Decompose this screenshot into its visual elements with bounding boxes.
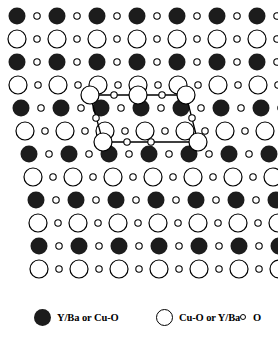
atom-small-open [202, 128, 208, 134]
atom-small-open [216, 266, 222, 272]
atom-large-open [249, 76, 267, 94]
atom-large-open [184, 168, 202, 186]
atom-large-open [49, 76, 67, 94]
atom-large-open [149, 214, 167, 232]
atom-small-open [250, 174, 256, 180]
atom-small-open [86, 151, 92, 157]
atom-large-filled [148, 192, 165, 209]
atom-large-open [144, 168, 162, 186]
open-large-circle-icon [156, 309, 173, 326]
atom-large-filled [209, 54, 226, 71]
atom-small-open [42, 128, 48, 134]
atom-small-open [56, 243, 62, 249]
atom-large-filled [108, 192, 125, 209]
atom-small-open [194, 36, 200, 42]
atom-large-filled [261, 146, 278, 163]
atom-large-filled [129, 8, 146, 25]
atom-large-open [69, 214, 87, 232]
atom-large-open [208, 30, 226, 48]
atom-small-open [56, 266, 62, 272]
atom-small-open [114, 59, 120, 65]
atom-small-open [216, 243, 222, 249]
atom-small-open [74, 13, 80, 19]
atom-large-filled [151, 238, 168, 255]
atom-large-open [224, 168, 242, 186]
legend-item-o: O [240, 296, 261, 338]
atom-small-open [34, 13, 40, 19]
atom-large-filled [253, 100, 270, 117]
atom-large-filled [68, 192, 85, 209]
unit-cell-node-large-open [189, 133, 207, 151]
atom-large-open [88, 30, 106, 48]
atom-small-open [274, 59, 278, 65]
atom-small-open [255, 220, 261, 226]
atom-large-open [264, 168, 278, 186]
atom-large-filled [9, 54, 26, 71]
atom-small-open [118, 105, 124, 111]
atom-small-open [234, 59, 240, 65]
atom-small-open [206, 151, 212, 157]
atom-large-filled [221, 146, 238, 163]
atom-large-filled [89, 8, 106, 25]
atom-small-open [122, 128, 128, 134]
atom-small-open [274, 13, 278, 19]
atom-large-filled [13, 100, 30, 117]
atom-small-open [194, 13, 200, 19]
atom-small-open [96, 266, 102, 272]
atom-large-open [56, 122, 74, 140]
atom-large-open [29, 214, 47, 232]
atom-small-open [238, 105, 244, 111]
atom-small-open [235, 82, 241, 88]
atom-large-filled [71, 238, 88, 255]
atom-small-open [136, 243, 142, 249]
unit-cell-node-small-open [159, 92, 165, 98]
lattice-figure [0, 0, 278, 342]
atom-small-open [135, 220, 141, 226]
atom-large-open [128, 30, 146, 48]
atom-large-filled [129, 54, 146, 71]
atom-large-filled [169, 8, 186, 25]
atom-small-open [74, 36, 80, 42]
unit-cell-node-large-open [81, 86, 99, 104]
legend-item-cu-o-or-y-ba: Cu-O or Y/Ba [156, 296, 240, 338]
atom-small-open [75, 82, 81, 88]
atom-large-filled [228, 192, 245, 209]
atom-large-filled [28, 192, 45, 209]
atom-small-open [78, 105, 84, 111]
atom-large-open [16, 122, 34, 140]
unit-cell-node-small-open [93, 115, 99, 121]
atom-large-open [70, 260, 88, 278]
atom-large-filled [53, 100, 70, 117]
unit-cell-node-small-open [148, 139, 154, 145]
atom-large-filled [9, 8, 26, 25]
atom-large-filled [188, 192, 205, 209]
atom-large-open [8, 30, 26, 48]
atom-small-open [213, 197, 219, 203]
atom-large-open [209, 76, 227, 94]
atom-large-open [189, 214, 207, 232]
atom-small-open [55, 220, 61, 226]
atom-large-filled [49, 54, 66, 71]
atom-small-open [234, 36, 240, 42]
atom-small-open [256, 266, 262, 272]
atom-small-open [46, 151, 52, 157]
atom-large-open [150, 260, 168, 278]
atom-large-filled [21, 146, 38, 163]
atom-small-open [115, 82, 121, 88]
atom-large-filled [111, 238, 128, 255]
atom-large-open [216, 122, 234, 140]
legend-item-y-ba-or-cu-o: Y/Ba or Cu-O [34, 296, 119, 338]
atom-small-open [246, 151, 252, 157]
atom-small-open [210, 174, 216, 180]
atom-small-open [198, 105, 204, 111]
atom-large-filled [61, 146, 78, 163]
atom-large-open [229, 214, 247, 232]
unit-cell-node-small-open [111, 92, 117, 98]
atom-large-open [110, 260, 128, 278]
atom-small-open [154, 13, 160, 19]
atom-small-open [175, 220, 181, 226]
atom-large-filled [213, 100, 230, 117]
atom-small-open [155, 82, 161, 88]
atom-large-filled [191, 238, 208, 255]
legend: Y/Ba or Cu-O Cu-O or Y/Ba O [0, 296, 278, 338]
